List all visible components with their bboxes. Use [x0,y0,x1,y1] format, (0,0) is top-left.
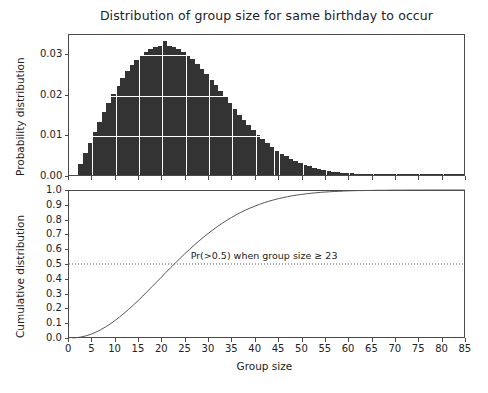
axis-tick [65,54,69,55]
x-tick-label: 40 [248,343,261,354]
axis-tick [395,338,396,342]
axis-tick [65,279,69,280]
histogram-bar [461,174,465,175]
x-tick-label: 70 [388,343,401,354]
axis-tick [65,176,69,177]
axis-tick [91,176,92,180]
x-tick-label: 5 [88,343,94,354]
axis-tick [68,338,69,342]
axis-tick [91,338,92,342]
axis-tick [65,294,69,295]
axis-tick [65,205,69,206]
axis-tick [65,95,69,96]
axis-tick [115,176,116,180]
y-tick-label-bottom: 0.3 [46,288,62,299]
axis-tick [302,176,303,180]
axis-tick [138,176,139,180]
axis-tick [65,135,69,136]
x-tick-label: 25 [178,343,191,354]
axis-tick [348,176,349,180]
axis-tick [465,338,466,342]
axis-tick [65,190,69,191]
x-tick-label: 85 [459,343,472,354]
x-tick-label: 55 [318,343,331,354]
axis-tick [138,338,139,342]
y-axis-label-bottom: Cumulative distribution [14,215,26,338]
x-tick-label: 60 [342,343,355,354]
gridline-horizontal [69,55,464,56]
axis-tick [115,338,116,342]
x-tick-label: 45 [272,343,285,354]
axis-tick [372,338,373,342]
axis-tick [442,338,443,342]
y-tick-label-bottom: 0.9 [46,199,62,210]
x-axis-label: Group size [237,360,293,372]
axis-tick [348,338,349,342]
axis-tick [68,176,69,180]
gridline-horizontal [69,96,464,97]
axis-tick [278,338,279,342]
axis-tick [442,176,443,180]
axis-tick [208,338,209,342]
y-tick-label-bottom: 0.1 [46,317,62,328]
axis-tick [65,249,69,250]
x-tick-label: 65 [365,343,378,354]
axis-tick [302,338,303,342]
axis-tick [255,176,256,180]
axis-tick [418,338,419,342]
axis-tick [65,234,69,235]
gridline-horizontal [69,136,464,137]
x-tick-label: 50 [295,343,308,354]
y-tick-label-bottom: 0.2 [46,302,62,313]
axis-tick [325,176,326,180]
axis-tick [185,338,186,342]
probability-distribution-plot [68,34,465,176]
y-tick-label-bottom: 0.7 [46,228,62,239]
axis-tick [231,338,232,342]
axis-tick [65,220,69,221]
x-tick-label: 20 [155,343,168,354]
x-tick-label: 35 [225,343,238,354]
axis-tick [208,176,209,180]
x-tick-label: 15 [132,343,145,354]
axis-tick [278,176,279,180]
threshold-annotation: Pr(>0.5) when group size ≥ 23 [191,250,338,261]
axis-tick [255,338,256,342]
y-tick-label-bottom: 0.8 [46,214,62,225]
axis-tick [231,176,232,180]
y-tick-label-bottom: 0.6 [46,243,62,254]
axis-tick [372,176,373,180]
y-tick-label-top: 0.00 [40,170,62,181]
axis-tick [65,338,69,339]
axis-tick [65,323,69,324]
axis-tick [185,176,186,180]
axis-tick [161,338,162,342]
axis-tick [418,176,419,180]
y-tick-label-bottom: 0.5 [46,258,62,269]
axis-tick [325,338,326,342]
axis-tick [65,264,69,265]
axis-tick [465,176,466,180]
y-tick-label-bottom: 0.0 [46,332,62,343]
axis-tick [161,176,162,180]
chart-title: Distribution of group size for same birt… [68,8,465,23]
x-tick-label: 30 [202,343,215,354]
x-tick-label: 10 [108,343,121,354]
y-tick-label-top: 0.02 [40,89,62,100]
cumulative-distribution-plot [68,190,465,338]
y-tick-label-bottom: 0.4 [46,273,62,284]
x-tick-label: 75 [412,343,425,354]
y-tick-label-top: 0.01 [40,129,62,140]
x-tick-label: 0 [65,343,71,354]
y-tick-label-bottom: 1.0 [46,184,62,195]
x-tick-label: 80 [435,343,448,354]
figure: Distribution of group size for same birt… [0,0,488,393]
axis-tick [395,176,396,180]
axis-tick [65,308,69,309]
y-axis-label-top: Probability distribution [14,57,26,176]
y-tick-label-top: 0.03 [40,48,62,59]
